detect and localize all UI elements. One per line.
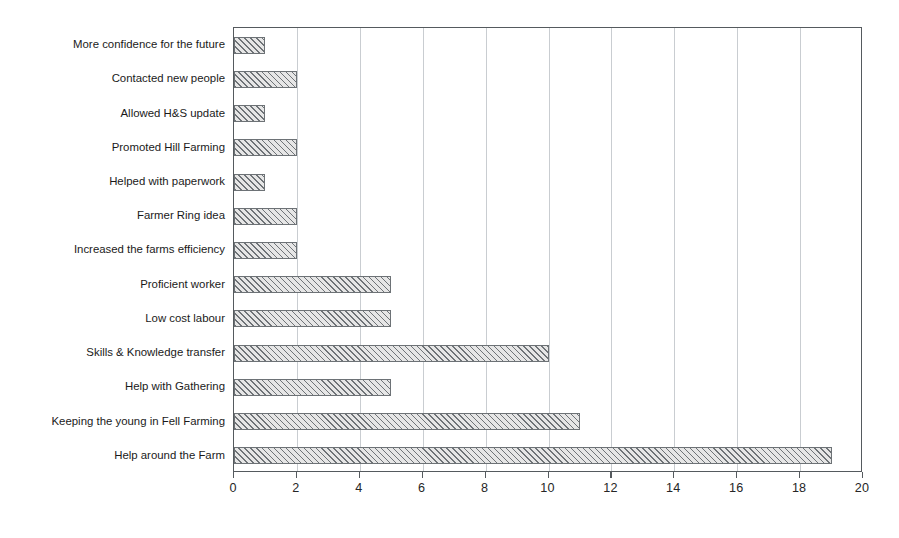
category-label-row: Promoted Hill Farming <box>0 130 225 164</box>
category-label-row: Proficient worker <box>0 267 225 301</box>
bar-band <box>234 439 863 473</box>
x-tick-mark-4 <box>359 472 360 478</box>
bar[interactable] <box>234 37 265 54</box>
x-tick-mark-18 <box>799 472 800 478</box>
bar[interactable] <box>234 413 580 430</box>
bar[interactable] <box>234 174 265 191</box>
bar[interactable] <box>234 139 297 156</box>
bar-band <box>234 165 863 199</box>
x-tick-label-0: 0 <box>229 482 236 495</box>
bar-band <box>234 302 863 336</box>
x-tick-mark-20 <box>862 472 863 478</box>
category-label: Low cost labour <box>145 312 225 324</box>
x-axis: 02468101214161820 <box>233 472 862 516</box>
bar-band <box>234 405 863 439</box>
bar[interactable] <box>234 208 297 225</box>
x-tick-label-16: 16 <box>729 482 743 495</box>
x-tick-label-14: 14 <box>666 482 680 495</box>
category-label-row: Helped with paperwork <box>0 164 225 198</box>
category-label: Proficient worker <box>140 278 225 290</box>
bar-band <box>234 233 863 267</box>
x-tick-mark-14 <box>673 472 674 478</box>
category-label: Allowed H&S update <box>121 107 225 119</box>
category-label-row: Contacted new people <box>0 61 225 95</box>
bar[interactable] <box>234 276 391 293</box>
bar-band <box>234 28 863 62</box>
bar[interactable] <box>234 105 265 122</box>
x-tick-label-20: 20 <box>855 482 869 495</box>
x-tick-label-4: 4 <box>355 482 362 495</box>
category-label-row: Allowed H&S update <box>0 95 225 129</box>
bar[interactable] <box>234 447 832 464</box>
category-label: Helped with paperwork <box>109 175 225 187</box>
bar-band <box>234 96 863 130</box>
x-tick-mark-10 <box>548 472 549 478</box>
x-tick-label-18: 18 <box>792 482 806 495</box>
category-label: Help with Gathering <box>125 380 225 392</box>
bar-band <box>234 62 863 96</box>
category-label: Keeping the young in Fell Farming <box>52 415 226 427</box>
category-label-row: Help around the Farm <box>0 438 225 472</box>
category-axis-labels: More confidence for the futureContacted … <box>0 27 233 472</box>
bar-band <box>234 199 863 233</box>
category-label: Promoted Hill Farming <box>112 141 225 153</box>
x-tick-mark-16 <box>736 472 737 478</box>
category-label: Help around the Farm <box>114 449 225 461</box>
x-tick-mark-6 <box>422 472 423 478</box>
bar-chart: More confidence for the futureContacted … <box>0 0 899 538</box>
x-tick-mark-0 <box>233 472 234 478</box>
bar-band <box>234 370 863 404</box>
bar-band <box>234 336 863 370</box>
x-tick-mark-8 <box>485 472 486 478</box>
category-label-row: Farmer Ring idea <box>0 198 225 232</box>
category-label-row: Help with Gathering <box>0 369 225 403</box>
bar-band <box>234 131 863 165</box>
x-tick-label-10: 10 <box>540 482 554 495</box>
bar[interactable] <box>234 379 391 396</box>
category-label: More confidence for the future <box>73 38 225 50</box>
category-label-row: Keeping the young in Fell Farming <box>0 404 225 438</box>
x-tick-mark-12 <box>610 472 611 478</box>
category-label: Farmer Ring idea <box>137 209 225 221</box>
category-label: Contacted new people <box>112 72 225 84</box>
bar-band <box>234 268 863 302</box>
x-tick-mark-2 <box>296 472 297 478</box>
category-label-row: More confidence for the future <box>0 27 225 61</box>
category-label: Skills & Knowledge transfer <box>86 346 225 358</box>
x-tick-label-2: 2 <box>292 482 299 495</box>
bar[interactable] <box>234 310 391 327</box>
bar[interactable] <box>234 71 297 88</box>
category-label-row: Increased the farms efficiency <box>0 232 225 266</box>
bar[interactable] <box>234 345 549 362</box>
category-label-row: Skills & Knowledge transfer <box>0 335 225 369</box>
category-label: Increased the farms efficiency <box>74 243 225 255</box>
plot-area <box>233 27 862 472</box>
x-tick-label-8: 8 <box>481 482 488 495</box>
x-tick-label-12: 12 <box>603 482 617 495</box>
x-tick-label-6: 6 <box>418 482 425 495</box>
category-label-row: Low cost labour <box>0 301 225 335</box>
bar[interactable] <box>234 242 297 259</box>
